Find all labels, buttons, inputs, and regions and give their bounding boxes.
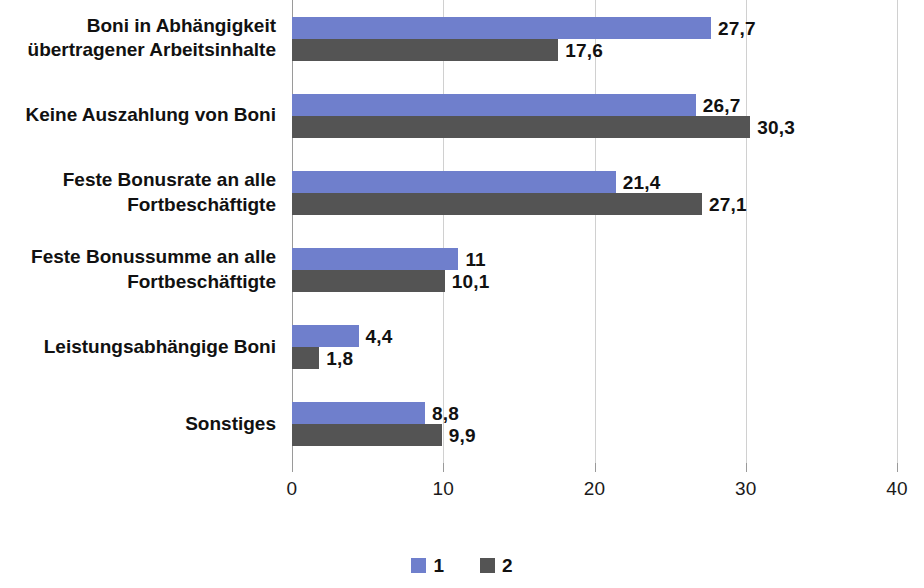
category-label: Sonstiges: [0, 412, 276, 437]
bar-series-2: [292, 193, 702, 215]
plot-area: 010203040Boni in Abhängigkeit übertragen…: [292, 0, 897, 463]
bar-value-label: 10,1: [452, 271, 490, 293]
bar-series-1: [292, 171, 616, 193]
tickmark-10: [443, 463, 444, 472]
bar-series-2: [292, 347, 319, 369]
category-label: Keine Auszahlung von Boni: [0, 103, 276, 128]
legend-label: 2: [502, 556, 513, 575]
bar-value-label: 27,7: [718, 18, 756, 40]
bar-series-1: [292, 248, 458, 270]
bar-series-2: [292, 39, 558, 61]
bar-series-1: [292, 94, 696, 116]
gridline-40: [897, 0, 898, 463]
gridline-0: [292, 0, 293, 463]
legend-item: 2: [480, 556, 513, 575]
bar-series-1: [292, 402, 425, 424]
category-group: Boni in Abhängigkeit übertragener Arbeit…: [292, 17, 897, 61]
bar-series-2: [292, 116, 750, 138]
category-label: Feste Bonusrate an alle Fortbeschäftigte: [0, 168, 276, 217]
tickmark-40: [897, 463, 898, 472]
bar-chart: 010203040Boni in Abhängigkeit übertragen…: [0, 0, 924, 588]
x-axis-tick-label: 40: [886, 478, 908, 500]
bar-value-label: 26,7: [703, 95, 741, 117]
bar-value-label: 30,3: [757, 117, 795, 139]
bar-value-label: 27,1: [709, 194, 747, 216]
category-group: Feste Bonussumme an alle Fortbeschäftigt…: [292, 248, 897, 292]
legend-swatch: [411, 558, 426, 573]
category-group: Leistungsabhängige Boni4,41,8: [292, 325, 897, 369]
bar-series-2: [292, 424, 442, 446]
category-label: Feste Bonussumme an alle Fortbeschäftigt…: [0, 245, 276, 294]
bar-value-label: 8,8: [432, 403, 459, 425]
category-group: Keine Auszahlung von Boni26,730,3: [292, 94, 897, 138]
bar-value-label: 4,4: [366, 326, 393, 348]
category-group: Feste Bonusrate an alle Fortbeschäftigte…: [292, 171, 897, 215]
legend-item: 1: [411, 556, 444, 575]
gridline-10: [443, 0, 444, 463]
legend-label: 1: [433, 556, 444, 575]
tickmark-0: [292, 463, 293, 472]
gridline-20: [595, 0, 596, 463]
category-label: Leistungsabhängige Boni: [0, 335, 276, 360]
bar-value-label: 11: [465, 249, 486, 271]
bar-series-1: [292, 325, 359, 347]
bar-value-label: 17,6: [565, 40, 603, 62]
bar-series-2: [292, 270, 445, 292]
gridline-30: [746, 0, 747, 463]
x-axis-tick-label: 10: [432, 478, 454, 500]
bar-value-label: 9,9: [449, 425, 476, 447]
category-group: Sonstiges8,89,9: [292, 402, 897, 446]
x-axis-tick-label: 30: [735, 478, 757, 500]
chart-legend: 12: [0, 556, 924, 575]
legend-swatch: [480, 558, 495, 573]
x-axis-tick-label: 20: [584, 478, 606, 500]
tickmark-20: [595, 463, 596, 472]
bar-value-label: 21,4: [623, 172, 661, 194]
bar-series-1: [292, 17, 711, 39]
bar-value-label: 1,8: [326, 348, 353, 370]
tickmark-30: [746, 463, 747, 472]
x-axis-tick-label: 0: [287, 478, 298, 500]
category-label: Boni in Abhängigkeit übertragener Arbeit…: [0, 14, 276, 63]
